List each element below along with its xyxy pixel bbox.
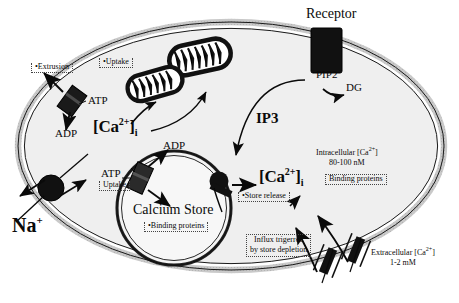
cytosolic-calcium-label-left: [Ca2+]i [93,118,137,136]
membrane-receptor[interactable] [311,28,342,73]
influx-line-2: by store depletion [250,245,307,255]
extracellular-close: ] [432,248,435,257]
ca-superscript-2: 2+ [285,166,295,177]
ca-bracket-open-2: [Ca [259,167,285,186]
atp-serca-label: ATP [101,168,121,180]
calcium-signaling-figure: Receptor PIP2 DG IP3 •Extrusion ATP ADP … [0,0,459,303]
store-binding-proteins-label: •Binding proteins [144,222,208,232]
extracellular-text: Extracellular [Ca [371,248,426,257]
influx-trigger-label: Influx trigerred by store depletion [246,234,311,257]
pip2-label: PIP2 [316,69,337,81]
cytosolic-binding-proteins-label: Binding proteins [325,174,387,185]
ip3-label: IP3 [256,111,279,127]
intracellular-text: Intracellular [Ca [316,148,369,157]
ca-superscript: 2+ [119,116,129,127]
sodium-label: Na+ [12,215,43,236]
cytosolic-calcium-label-right: [Ca2+]i [259,168,303,186]
extracellular-concentration-label: Extracellular [Ca2+] 1-2 mM [371,248,435,269]
sodium-charge: + [36,214,42,226]
mito-uptake-label: •Uptake [99,58,133,68]
serca-uptake-label: Uptake [99,181,130,191]
influx-line-1: Influx trigerred [250,235,307,245]
intracellular-line-2: 80-100 nM [316,158,378,168]
intracellular-concentration-label: Intracellular [Ca2+] 80-100 nM [316,148,378,169]
extrusion-label: •Extrusion [31,63,73,73]
intracellular-close: ] [375,148,378,157]
store-release-label: •Store release [238,192,290,202]
dg-label: DG [346,82,362,94]
ca-bracket-open: [Ca [93,117,119,136]
cytoplasm [24,28,438,264]
adp-pmca-label: ADP [55,128,77,140]
extracellular-line-1: Extracellular [Ca2+] [371,248,435,258]
calcium-store-label: Calcium Store [133,203,214,218]
ca-subscript: i [135,127,138,138]
ca-subscript-2: i [301,177,304,188]
extracellular-line-2: 1-2 mM [371,258,435,268]
receptor-label: Receptor [306,7,357,22]
intracellular-line-1: Intracellular [Ca2+] [316,148,378,158]
atp-pmca-label: ATP [88,95,108,107]
sodium-symbol: Na [12,214,36,236]
adp-serca-label: ADP [163,140,185,152]
